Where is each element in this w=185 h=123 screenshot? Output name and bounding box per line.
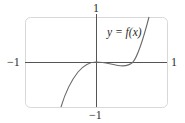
function-label: y = f(x)	[107, 27, 142, 39]
x-axis-max-label: 1	[171, 56, 177, 68]
function-graph-figure: 1 −1 −1 1 y = f(x)	[0, 0, 185, 123]
graph-canvas	[0, 0, 185, 123]
y-axis-max-label: 1	[93, 2, 99, 14]
x-axis-min-label: −1	[7, 56, 20, 68]
y-axis-min-label: −1	[89, 109, 102, 121]
